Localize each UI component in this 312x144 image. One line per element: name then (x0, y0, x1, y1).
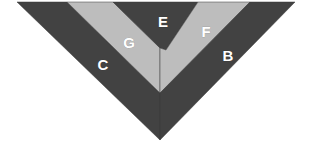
chevron-diagram-figure: C G E F B (0, 0, 312, 144)
band-label-B: B (223, 47, 234, 64)
band-label-E: E (158, 13, 168, 30)
chevron-diagram-canvas: C G E F B (0, 0, 312, 144)
band-label-C: C (98, 56, 109, 73)
band-label-G: G (123, 34, 135, 51)
band-label-F: F (201, 23, 210, 40)
